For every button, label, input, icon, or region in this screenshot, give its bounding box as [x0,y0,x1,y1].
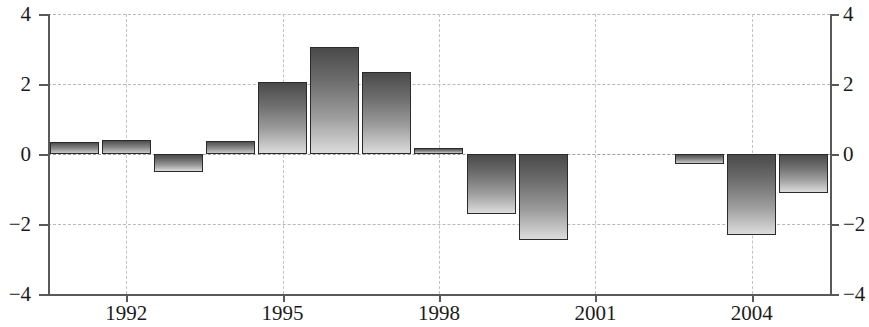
y-tick-left-2 [39,84,48,86]
y-tick-right--4 [830,294,839,296]
y-axis-right-label-2: 2 [843,74,854,95]
bar-1994 [206,141,255,154]
y-axis-left-label-2: 2 [21,74,32,95]
bar-2000 [519,154,568,240]
gridline-x-1995 [283,14,284,294]
bar-2003 [675,154,724,164]
bar-1999 [467,154,516,214]
bar-1993 [154,154,203,172]
gridline-x-1992 [126,14,127,294]
x-axis-label-1998: 1998 [418,303,460,324]
y-tick-right--2 [830,224,839,226]
x-axis-label-1992: 1992 [105,303,147,324]
bar-1995 [258,82,307,154]
y-axis-right-label--4: −4 [843,284,865,305]
bar-1992 [102,140,151,154]
bar-1998 [414,148,463,154]
bar-1996 [310,47,359,154]
y-tick-right-4 [830,14,839,16]
y-tick-left--2 [39,224,48,226]
y-tick-left-4 [39,14,48,16]
y-axis-right-label--2: −2 [843,214,865,235]
y-axis-left-label-0: 0 [21,144,32,165]
y-tick-left--4 [39,294,48,296]
x-axis-label-2004: 2004 [731,303,773,324]
bar-2004 [727,154,776,235]
bar-1991 [50,142,99,154]
bar-chart: 420−2−4 420−2−4 19921995199820012004 [0,0,869,327]
y-axis-left-line [48,14,50,294]
y-axis-left-label--2: −2 [9,214,31,235]
y-tick-right-2 [830,84,839,86]
y-axis-left-label--4: −4 [9,284,31,305]
plot-area [48,14,830,294]
y-axis-right-label-0: 0 [843,144,854,165]
x-axis-label-2001: 2001 [574,303,616,324]
y-axis-right-label-4: 4 [843,4,854,25]
x-axis-label-1995: 1995 [262,303,304,324]
gridline-x-2001 [595,14,596,294]
y-tick-left-0 [39,154,48,156]
y-axis-left-label-4: 4 [21,4,32,25]
bar-1997 [362,72,411,154]
y-tick-right-0 [830,154,839,156]
gridline-x-1998 [439,14,440,294]
bar-2005 [779,154,828,193]
